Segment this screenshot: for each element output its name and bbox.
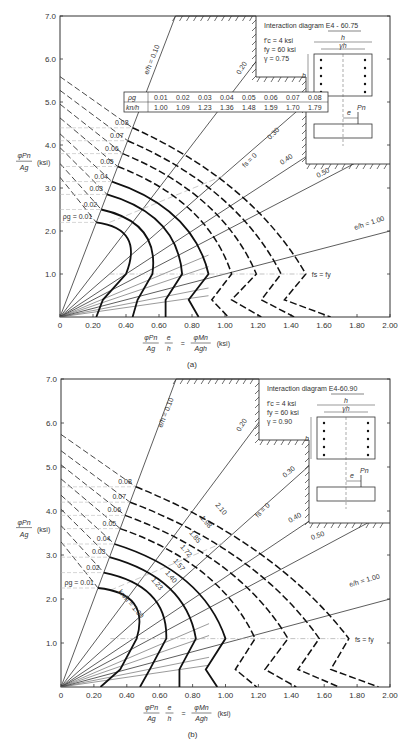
svg-text:0.01: 0.01 <box>154 94 168 101</box>
kn-label: 1.85 <box>188 529 202 544</box>
inset-legend: Interaction diagram E4-60.90f'c = 4 ksif… <box>267 385 375 509</box>
svg-text:φMn: φMn <box>194 704 208 712</box>
fs-fy-label: fs = fy <box>355 636 374 644</box>
x-tick-label: 1.00 <box>218 691 234 700</box>
svg-text:h: h <box>168 715 172 722</box>
svg-text:1.23: 1.23 <box>198 104 212 111</box>
eh-label: e/h = 1.00 <box>348 573 380 588</box>
svg-text:γh: γh <box>342 405 350 413</box>
rho-label: 0.06 <box>108 506 122 513</box>
param-text: fy = 60 ksi <box>267 409 299 417</box>
x-tick-label: 1.40 <box>284 691 300 700</box>
y-tick-label: 7.0 <box>46 375 58 384</box>
svg-text:φPn: φPn <box>17 152 30 160</box>
diagram-title: Interaction diagram E4-60.90 <box>267 385 357 393</box>
y-tick-label: 6.0 <box>45 55 57 64</box>
rho-label: 0.05 <box>103 520 117 527</box>
rho-curve <box>104 573 167 687</box>
eh-label: 0.40 <box>287 511 302 524</box>
eh-label: 0.50 <box>310 530 325 541</box>
svg-text:kn/h: kn/h <box>126 104 139 111</box>
svg-text:Agh: Agh <box>194 715 208 723</box>
svg-text:1.36: 1.36 <box>220 104 234 111</box>
kn-label: 1.98 <box>199 514 213 529</box>
svg-text:b: b <box>305 435 309 442</box>
rho-label: 0.07 <box>110 132 124 139</box>
svg-text:Ag: Ag <box>19 164 29 172</box>
x-tick-label: 1.80 <box>349 321 365 330</box>
fs-zero-label: fs = 0 <box>241 151 258 168</box>
svg-text:1.48: 1.48 <box>242 104 256 111</box>
svg-text:0.04: 0.04 <box>220 94 234 101</box>
rho-label: 0.06 <box>105 145 119 152</box>
y-tick-label: 3.0 <box>46 551 58 560</box>
svg-text:Ag: Ag <box>145 345 155 353</box>
eh-label: e/h = 0.10 <box>142 44 160 76</box>
eh-line <box>61 379 291 687</box>
rho-label: 0.08 <box>118 478 132 485</box>
svg-text:e: e <box>168 704 172 711</box>
svg-text:(ksi): (ksi) <box>217 340 230 348</box>
svg-text:1.59: 1.59 <box>264 104 278 111</box>
svg-text:0.03: 0.03 <box>198 94 212 101</box>
svg-text:Agh: Agh <box>194 345 208 353</box>
svg-text:0.08: 0.08 <box>308 94 322 101</box>
rho-kn-table: ρgkn/h0.010.020.030.040.050.060.070.081.… <box>124 92 328 112</box>
svg-text:h: h <box>167 345 171 352</box>
rho-label: 0.02 <box>86 564 100 571</box>
x-tick-label: 1.20 <box>250 321 266 330</box>
rho-label: 0.05 <box>100 158 114 165</box>
y-axis-label: φPnAg(ksi) <box>16 152 50 172</box>
svg-text:Pn: Pn <box>360 467 369 474</box>
svg-text:0.02: 0.02 <box>176 94 190 101</box>
x-tick-label: 1.00 <box>217 321 233 330</box>
x-tick-label: 0.20 <box>85 321 101 330</box>
svg-text:φMn: φMn <box>194 334 208 342</box>
rho-label: 0.07 <box>112 493 126 500</box>
y-tick-label: 4.0 <box>45 141 57 150</box>
svg-text:1.00: 1.00 <box>154 104 168 111</box>
svg-text:φPn: φPn <box>144 334 157 342</box>
x-tick-label: 0.60 <box>152 691 168 700</box>
rho-label: 0.08 <box>115 119 129 126</box>
fs-fy-label: fs = fy <box>312 271 331 279</box>
svg-text:Pn: Pn <box>357 104 366 111</box>
diagram-title: Interaction diagram E4 - 60.75 <box>264 22 358 30</box>
fs-zero-label: fs = 0 <box>254 501 271 518</box>
param-text: f'c = 4 ksi <box>267 400 297 407</box>
svg-text:Ag: Ag <box>19 531 29 539</box>
svg-text:e: e <box>347 109 351 116</box>
rho-label: ρg = 0.01 <box>65 579 95 587</box>
y-axis-label: φPnAg(ksi) <box>16 519 50 539</box>
svg-text:b: b <box>302 72 306 79</box>
eh-label: 0.20 <box>235 417 248 432</box>
x-tick-label: 2.00 <box>382 321 398 330</box>
y-tick-label: 5.0 <box>46 463 58 472</box>
x-tick-label: 2.00 <box>382 691 398 700</box>
rho-label: 0.02 <box>84 201 98 208</box>
y-tick-label: 1.0 <box>45 270 57 279</box>
svg-text:(ksi): (ksi) <box>37 159 50 167</box>
svg-text:=: = <box>181 340 185 347</box>
x-tick-label: 1.40 <box>283 321 299 330</box>
fs-zero-line <box>110 175 226 222</box>
svg-text:1.09: 1.09 <box>176 104 190 111</box>
rho-curve <box>133 128 331 317</box>
rho-label: 0.04 <box>94 173 108 180</box>
y-tick-label: 4.0 <box>46 507 58 516</box>
interaction-diagram-b: 00.200.400.600.801.001.201.401.601.802.0… <box>0 370 411 743</box>
inset-legend: Interaction diagram E4 - 60.75f'c = 4 ks… <box>264 22 372 146</box>
eh-label: 0.30 <box>266 126 281 141</box>
eh-label: 0.30 <box>281 465 296 479</box>
interaction-diagram-a: 00.200.400.600.801.001.201.401.601.802.0… <box>0 0 411 370</box>
rho-label: 0.03 <box>92 548 106 555</box>
kn-label: 1.40 <box>164 569 178 584</box>
y-tick-label: 7.0 <box>45 12 57 21</box>
x-tick-label: 1.60 <box>316 321 332 330</box>
param-text: γ = 0.90 <box>267 418 292 426</box>
svg-text:φPn: φPn <box>17 519 30 527</box>
figure-caption: (a) <box>187 360 197 369</box>
y-tick-label: 2.0 <box>45 227 57 236</box>
svg-text:ρg: ρg <box>127 94 136 102</box>
svg-text:e: e <box>350 472 354 479</box>
